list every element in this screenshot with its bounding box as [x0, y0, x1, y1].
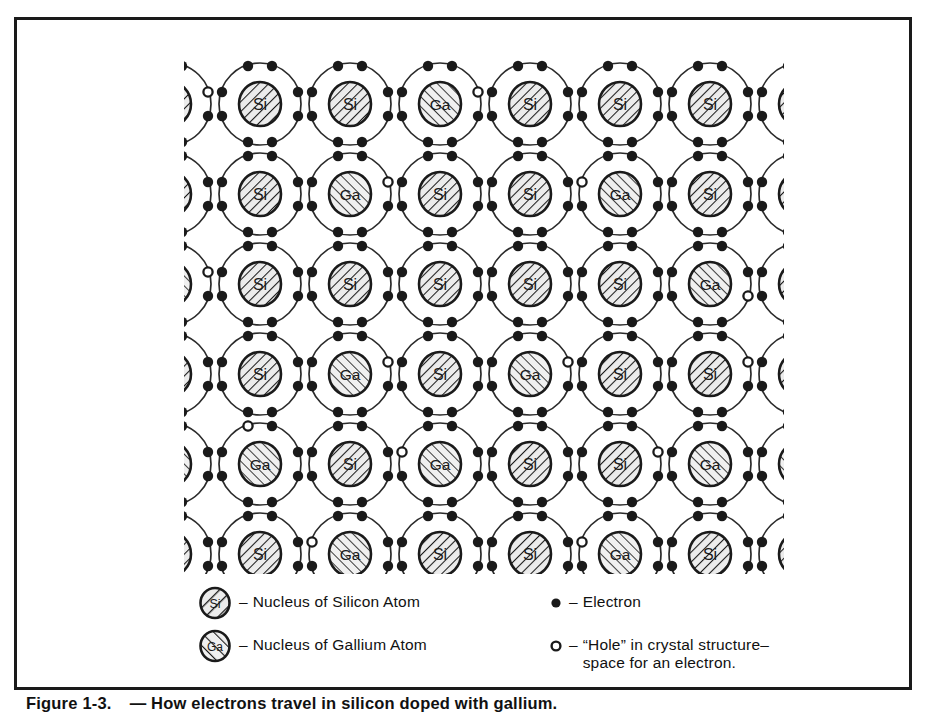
svg-text:Ga: Ga — [700, 456, 721, 473]
svg-text:Si: Si — [703, 186, 717, 203]
svg-text:Ga: Ga — [700, 276, 721, 293]
svg-text:Ga: Ga — [610, 546, 631, 563]
svg-text:Ga: Ga — [250, 456, 271, 473]
legend-electron-text: Electron — [583, 586, 641, 611]
svg-text:Si: Si — [253, 186, 267, 203]
svg-text:Ga: Ga — [430, 456, 451, 473]
svg-text:Si: Si — [613, 366, 627, 383]
svg-text:Si: Si — [703, 366, 717, 383]
svg-text:Si: Si — [703, 546, 717, 563]
svg-text:Si: Si — [703, 96, 717, 113]
svg-text:Si: Si — [613, 276, 627, 293]
svg-text:Si: Si — [523, 96, 537, 113]
silicon-nucleus-icon: Si — [193, 586, 237, 620]
legend-dash: – — [567, 586, 583, 611]
legend-silicon-label: Si — [209, 597, 220, 611]
legend-gallium-label: Ga — [207, 640, 223, 654]
svg-text:Si: Si — [433, 186, 447, 203]
svg-text:Si: Si — [523, 546, 537, 563]
svg-text:Si: Si — [433, 276, 447, 293]
legend-hole-text: “Hole” in crystal structure– space for a… — [583, 629, 769, 672]
crystal-lattice-diagram: SiSiGaSiSiSiSiGaSiSiGaSiSiSiSiSiSiGaSiGa… — [184, 29, 784, 574]
svg-text:Si: Si — [253, 276, 267, 293]
svg-text:Si: Si — [433, 366, 447, 383]
svg-text:Ga: Ga — [340, 186, 361, 203]
figure-caption: Figure 1-3.— How electrons travel in sil… — [26, 694, 916, 713]
svg-text:Si: Si — [523, 456, 537, 473]
caption-text: — How electrons travel in silicon doped … — [130, 694, 558, 712]
svg-text:Si: Si — [523, 186, 537, 203]
svg-text:Si: Si — [433, 546, 447, 563]
svg-text:Si: Si — [343, 456, 357, 473]
svg-text:Si: Si — [343, 96, 357, 113]
lattice-svg: SiSiGaSiSiSiSiGaSiSiGaSiSiSiSiSiSiGaSiGa… — [184, 29, 784, 574]
svg-text:Si: Si — [613, 456, 627, 473]
svg-text:Ga: Ga — [610, 186, 631, 203]
svg-text:Si: Si — [343, 276, 357, 293]
svg-text:Si: Si — [253, 96, 267, 113]
svg-text:Si: Si — [253, 546, 267, 563]
legend-gallium-text: Nucleus of Gallium Atom — [253, 629, 427, 654]
legend-item-electron: – Electron — [545, 586, 855, 629]
svg-text:Ga: Ga — [340, 366, 361, 383]
figure-border-frame: SiSiGaSiSiSiSiGaSiSiGaSiSiSiSiSiSiGaSiGa… — [14, 17, 912, 690]
legend-item-gallium: Ga – Nucleus of Gallium Atom — [193, 629, 523, 672]
legend-item-silicon: Si – Nucleus of Silicon Atom — [193, 586, 523, 629]
legend-dash: – — [237, 586, 253, 611]
svg-text:Si: Si — [253, 366, 267, 383]
legend-item-hole: – “Hole” in crystal structure– space for… — [545, 629, 855, 672]
svg-text:Ga: Ga — [520, 366, 541, 383]
legend-dash: – — [237, 629, 253, 654]
svg-text:Si: Si — [613, 96, 627, 113]
caption-number: Figure 1-3. — [26, 694, 112, 712]
hole-icon — [545, 629, 567, 663]
svg-text:Ga: Ga — [340, 546, 361, 563]
svg-text:Ga: Ga — [430, 96, 451, 113]
legend-silicon-text: Nucleus of Silicon Atom — [253, 586, 420, 611]
gallium-nucleus-icon: Ga — [193, 629, 237, 663]
svg-text:Si: Si — [523, 276, 537, 293]
electron-icon — [545, 586, 567, 620]
legend: Si – Nucleus of Silicon Atom Ga – Nucleu… — [193, 586, 853, 672]
legend-dash: – — [567, 629, 583, 654]
electron-layer — [184, 61, 784, 574]
